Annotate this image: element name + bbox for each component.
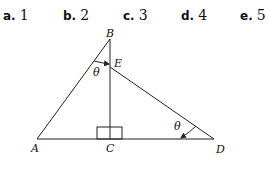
label-b: B [105, 27, 114, 40]
label-e: E [113, 57, 122, 70]
segment-ed [110, 67, 214, 139]
label-d: D [215, 143, 225, 156]
label-a: A [30, 142, 39, 155]
angle-arc-d [181, 126, 196, 138]
segment-ab [37, 39, 110, 139]
triangle-diagram: B E A C D θ θ [0, 0, 269, 169]
angle-theta-d: θ [174, 120, 181, 133]
angle-theta-b: θ [93, 66, 100, 79]
angle-arc-b [94, 61, 109, 64]
label-c: C [106, 142, 115, 155]
